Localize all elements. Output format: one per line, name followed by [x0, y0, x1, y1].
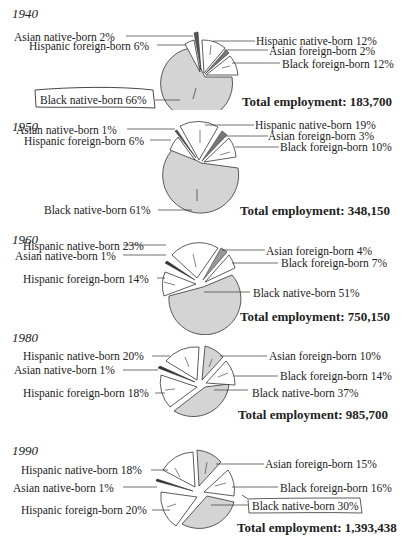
total-employment: Total employment: 750,150: [240, 309, 390, 325]
label-asian-foreign: Asian foreign-born 10%: [269, 350, 381, 362]
label-black-native: Black native-born 51%: [253, 287, 360, 299]
total-employment: Total employment: 183,700: [242, 94, 392, 110]
label-black-native: Black native-born 61%: [44, 204, 151, 216]
label-asian-foreign: Asian foreign-born 4%: [266, 245, 372, 257]
panel-1950: 1950 Asian native-born 1% Hispanic forei…: [0, 115, 411, 225]
label-hispanic-foreign: Hispanic foreign-born 20%: [21, 504, 147, 516]
label-black-foreign: Black foreign-born 7%: [281, 257, 387, 269]
label-hispanic-foreign: Hispanic foreign-born 6%: [29, 40, 149, 52]
label-hispanic-foreign: Hispanic foreign-born 18%: [23, 387, 149, 399]
label-hispanic-native: Hispanic native-born 18%: [21, 464, 142, 476]
panel-1960: 1960 Hispanic native-born 23% Asian nati…: [0, 230, 411, 335]
label-hispanic-foreign: Hispanic foreign-born 6%: [24, 135, 144, 147]
label-asian-foreign: Asian foreign-born 15%: [265, 458, 377, 470]
label-asian-foreign: Asian foreign-born 2%: [269, 45, 375, 57]
label-asian-native: Asian native-born 1%: [15, 250, 116, 262]
label-black-foreign: Black foreign-born 16%: [280, 482, 392, 494]
total-employment: Total employment: 348,150: [240, 203, 390, 219]
label-black-foreign: Black foreign-born 12%: [282, 58, 394, 70]
panel-1990: 1990 Hispanic native-born 18% Asian nati…: [0, 440, 411, 542]
label-hispanic-native: Hispanic native-born 20%: [23, 350, 144, 362]
label-black-native: Black native-born 37%: [252, 387, 359, 399]
label-black-native: Black native-born 66%: [40, 94, 147, 106]
label-hispanic-foreign: Hispanic foreign-born 14%: [23, 273, 149, 285]
panel-1940: 1940 Asian native-born 2% Hispanic forei…: [0, 0, 411, 110]
total-employment: Total employment: 1,393,438: [237, 520, 397, 536]
label-asian-native: Asian native-born 1%: [13, 482, 114, 494]
panel-1980: 1980 Hispanic native-born 20% Asian nati…: [0, 335, 411, 435]
label-black-foreign: Black foreign-born 14%: [280, 370, 392, 382]
label-black-native: Black native-born 30%: [252, 500, 359, 512]
label-black-foreign: Black foreign-born 10%: [280, 141, 392, 153]
label-asian-native: Asian native-born 1%: [14, 364, 115, 376]
total-employment: Total employment: 985,700: [238, 407, 388, 423]
